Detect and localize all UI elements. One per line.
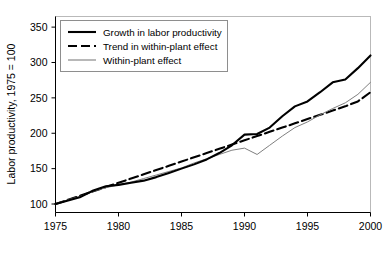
legend-label-within-plant-effect: Within-plant effect — [103, 55, 182, 66]
legend-label-growth-in-labor-productivity: Growth in labor productivity — [103, 27, 222, 38]
x-tick-label: 1990 — [233, 220, 257, 232]
chart-figure: 100150200250300350 197519801985199019952… — [0, 0, 389, 257]
y-tick-label: 200 — [30, 127, 48, 139]
y-axis-title: Labor productivity, 1975 = 100 — [5, 43, 17, 184]
line-chart: 100150200250300350 197519801985199019952… — [0, 0, 389, 257]
legend-label-trend-in-within-plant-effect: Trend in within-plant effect — [103, 41, 218, 52]
x-tick-label: 1985 — [170, 220, 194, 232]
chart-legend: Growth in labor productivity Trend in wi… — [61, 21, 228, 72]
y-tick-label: 100 — [30, 198, 48, 210]
x-tick-label: 2000 — [359, 220, 383, 232]
x-tick-label: 1975 — [44, 220, 68, 232]
x-tick-label: 1980 — [107, 220, 131, 232]
y-tick-label: 250 — [30, 92, 48, 104]
y-tick-label: 350 — [30, 21, 48, 33]
y-tick-label: 150 — [30, 162, 48, 174]
x-tick-label: 1995 — [296, 220, 320, 232]
y-tick-label: 300 — [30, 56, 48, 68]
